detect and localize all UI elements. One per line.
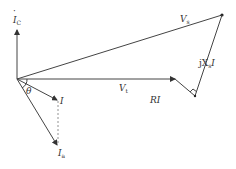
vs-phasor xyxy=(17,15,222,79)
ic-label: IC xyxy=(12,15,22,26)
phasor-diagram: IC · Vs Vt RI jXsI I Ia θ xyxy=(0,0,236,169)
ri-label: RI xyxy=(149,95,161,105)
jxsi-label: jXsI xyxy=(198,58,215,69)
theta-label: θ xyxy=(26,86,32,96)
jxsi-phasor xyxy=(195,15,222,96)
i-label: I xyxy=(59,96,64,106)
ri-phasor xyxy=(175,79,195,96)
ri-endpoint xyxy=(194,95,196,97)
angle-arc xyxy=(26,79,27,84)
vs-label: Vs xyxy=(180,14,190,25)
ic-dot: · xyxy=(13,6,16,16)
vt-label: Vt xyxy=(119,83,129,94)
right-angle-mark xyxy=(190,89,197,92)
ia-label: Ia xyxy=(57,148,66,159)
ia-phasor xyxy=(17,79,57,145)
